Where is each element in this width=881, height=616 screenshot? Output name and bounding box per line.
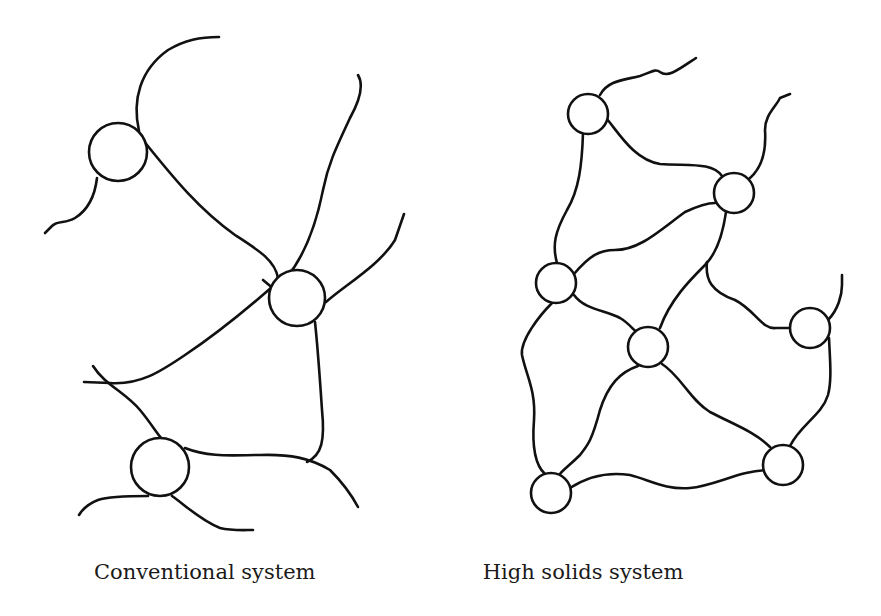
crosslink-node-4 [628,327,668,367]
chain-c-bottom [172,496,253,530]
chain-1-2 [607,119,722,176]
crosslink-node-c [131,438,189,496]
chain-b-top [287,75,361,277]
chain-3-2 [574,203,715,274]
chain-3-7 [522,303,552,474]
chain-c-left [79,496,148,515]
crosslink-node-5 [790,308,830,348]
chain-cross-c [93,366,170,447]
caption-high-solids-system: High solids system [413,560,753,584]
chain-b-left [84,287,272,383]
chain-branch-5 [707,262,790,328]
high-solids-network [522,58,842,513]
crosslink-node-7 [531,473,571,513]
crosslink-node-2 [714,173,754,213]
crosslink-node-3 [536,263,576,303]
crosslink-node-1 [568,94,608,134]
chain-a-top [137,37,219,131]
conventional-network [45,37,404,530]
crosslink-node-a [89,123,147,181]
crosslink-node-b [269,270,325,326]
network-diagram [0,0,881,616]
chain-1-tail [600,58,696,95]
chain-a-tail [45,178,97,233]
chain-4-6 [662,364,770,447]
crosslink-node-6 [763,445,803,485]
chain-7-6 [570,470,770,488]
chain-5-tail [828,275,842,320]
chain-1-3 [555,133,583,263]
chain-4-7 [560,366,638,474]
chain-2-tail [750,94,790,178]
chain-a-b [143,140,278,278]
chain-b-down [307,322,323,462]
chain-2-4 [660,212,726,328]
chain-5-6 [790,338,830,446]
chain-c-right [185,448,358,507]
chain-3-4 [574,295,638,331]
chain-b-right [326,214,404,302]
caption-conventional-system: Conventional system [94,560,315,584]
